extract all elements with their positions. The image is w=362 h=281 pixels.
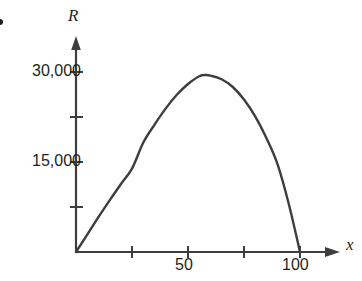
x-tick-label-100: 100 (282, 256, 309, 274)
x-axis-title: x (346, 235, 354, 255)
revenue-curve (76, 75, 300, 252)
y-tick-label-30000: 30,000 (32, 62, 81, 80)
y-axis-title: R (68, 6, 78, 26)
x-tick-label-50: 50 (175, 256, 193, 274)
chart-plot-area (0, 0, 362, 281)
chart-figure: 30,000 15,000 50 100 R x (0, 0, 362, 281)
y-tick-label-15000: 15,000 (32, 152, 81, 170)
